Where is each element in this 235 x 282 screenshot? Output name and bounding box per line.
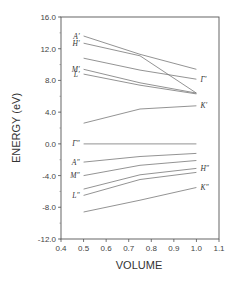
series-line	[84, 161, 197, 176]
series-line	[84, 188, 197, 213]
series-label: L′	[73, 70, 80, 79]
series-label: L″	[71, 191, 80, 200]
y-tick-label: -12.0	[38, 235, 57, 244]
series-line	[84, 172, 197, 195]
x-tick-label: 0.8	[146, 244, 158, 253]
series-label: H′	[72, 39, 80, 48]
series-lines	[84, 36, 197, 212]
series-label: Γ′	[199, 75, 206, 84]
series-label: K″	[199, 183, 209, 192]
series-line	[84, 36, 197, 69]
series-line	[84, 153, 197, 162]
y-tick-label: 4.0	[45, 108, 57, 117]
x-tick-label: 1.0	[191, 244, 203, 253]
y-tick-label: -4.0	[42, 172, 56, 181]
series-line	[84, 58, 197, 79]
x-tick-label: 0.6	[101, 244, 113, 253]
x-axis-title: VOLUME	[116, 259, 162, 271]
series-label: M″	[69, 171, 80, 180]
y-tick-label: 12.0	[40, 45, 56, 54]
x-axis-ticks: 0.40.50.60.70.80.91.01.1	[55, 239, 225, 253]
y-tick-label: 0.0	[45, 140, 57, 149]
y-axis-ticks: 16.012.08.04.00.0-4.0-8.0-12.0	[38, 13, 61, 244]
x-tick-label: 0.4	[55, 244, 67, 253]
series-line	[84, 168, 197, 189]
series-label: A″	[71, 158, 81, 167]
y-axis-title: ENERGY (eV)	[10, 93, 22, 163]
x-tick-label: 1.1	[213, 244, 225, 253]
series-label: K′	[199, 101, 207, 110]
x-tick-label: 0.7	[123, 244, 135, 253]
energy-volume-chart: 16.012.08.04.00.0-4.0-8.0-12.0 0.40.50.6…	[0, 0, 235, 282]
series-line	[84, 43, 197, 93]
series-line	[84, 106, 197, 123]
y-tick-label: 8.0	[45, 76, 57, 85]
y-tick-label: 16.0	[40, 13, 56, 22]
plot-frame	[61, 17, 219, 239]
x-tick-label: 0.5	[78, 244, 90, 253]
series-line	[84, 69, 197, 93]
x-tick-label: 0.9	[168, 244, 180, 253]
series-label: Γ″	[71, 139, 80, 148]
series-label: H″	[199, 164, 209, 173]
y-tick-label: -8.0	[42, 203, 56, 212]
series-line	[84, 74, 197, 94]
